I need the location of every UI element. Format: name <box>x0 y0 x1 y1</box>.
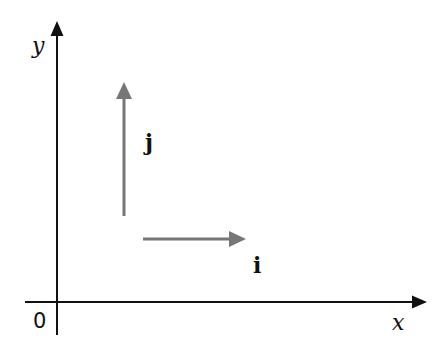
vector-i-label: i <box>253 252 261 278</box>
y-axis-arrowhead-icon <box>51 21 64 36</box>
vector-j-arrowhead-icon <box>116 82 132 99</box>
coordinate-diagram: y x 0 j i <box>0 0 448 354</box>
x-axis-arrowhead-icon <box>412 296 427 309</box>
origin-label: 0 <box>33 309 46 333</box>
vector-j-label: j <box>143 129 153 155</box>
vector-i-arrowhead-icon <box>229 231 246 247</box>
x-axis-label: x <box>392 310 405 335</box>
y-axis-label: y <box>31 33 45 58</box>
